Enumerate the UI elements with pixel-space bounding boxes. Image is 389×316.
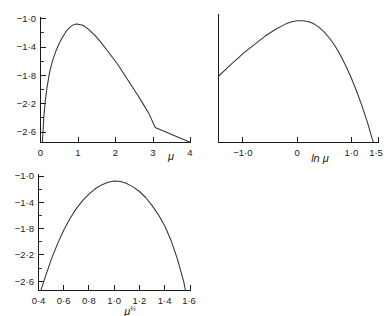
panel-mu-xtick-4: 4 (187, 147, 192, 158)
panel-mu: −1·0 −1·4 −1·8 −2·2 −2·6 0 1 2 3 4 μ (0, 0, 210, 165)
panel-lnmu-axes (219, 14, 379, 143)
panel-mucbrt-curve (41, 181, 185, 290)
panel-mucbrt-ytick-1: −1·4 (15, 197, 34, 208)
panel-mu-svg: −1·0 −1·4 −1·8 −2·2 −2·6 0 1 2 3 4 μ (0, 0, 210, 165)
panel-mucbrt-y-ticks (39, 176, 45, 281)
panel-mucbrt-xtick-0: 0·4 (32, 295, 46, 306)
panel-mu-xtick-0: 0 (38, 147, 43, 158)
panel-mu-ytick-4: −2·6 (17, 126, 36, 137)
panel-mucbrt: −1·0 −1·4 −1·8 −2·2 −2·6 0·4 0·6 0·8 1·0… (0, 165, 210, 316)
panel-mucbrt-xtick-6: 1·6 (182, 295, 196, 306)
panel-lnmu-svg: −1·0 0 1·0 1·5 ln μ (210, 0, 389, 165)
panel-mucbrt-x-ticks (39, 285, 191, 291)
panel-mu-x-ticks (41, 137, 191, 143)
panel-mucbrt-xaxis-label-exponent: ⅓ (130, 305, 136, 312)
panel-mucbrt-xtick-2: 0·8 (82, 295, 96, 306)
panel-mucbrt-xtick-1: 0·6 (57, 295, 71, 306)
panel-mucbrt-ytick-4: −2·6 (15, 276, 34, 287)
panel-mu-xtick-1: 1 (75, 147, 80, 158)
panel-lnmu-xtick-3: 1·5 (369, 147, 383, 158)
panel-mu-ytick-2: −1·8 (17, 70, 36, 81)
panel-mu-ytick-3: −2·2 (17, 98, 36, 109)
panel-mucbrt-ytick-0: −1·0 (15, 170, 34, 181)
figure-three-panel-plot: −1·0 −1·4 −1·8 −2·2 −2·6 0 1 2 3 4 μ (0, 0, 389, 316)
panel-mu-curve (42, 24, 190, 142)
panel-lnmu-xtick-1: 0 (295, 147, 300, 158)
panel-mu-xaxis-label: μ (167, 150, 174, 162)
panel-lnmu-xtick-2: 1·0 (345, 147, 359, 158)
panel-lnmu-curve (219, 21, 373, 142)
panel-lnmu: −1·0 0 1·0 1·5 ln μ (210, 0, 389, 165)
panel-mu-ytick-1: −1·4 (17, 41, 36, 52)
panel-mu-xtick-3: 3 (150, 147, 155, 158)
panel-mu-y-ticks (41, 19, 47, 132)
panel-lnmu-x-ticks (243, 137, 378, 143)
panel-mucbrt-ytick-2: −1·8 (15, 223, 34, 234)
panel-mucbrt-xaxis-label-base: μ (123, 305, 130, 316)
panel-mucbrt-ytick-3: −2·2 (15, 249, 34, 260)
panel-mucbrt-xtick-3: 1·0 (107, 295, 121, 306)
panel-mucbrt-svg: −1·0 −1·4 −1·8 −2·2 −2·6 0·4 0·6 0·8 1·0… (0, 165, 210, 316)
panel-mu-xtick-2: 2 (113, 147, 118, 158)
panel-lnmu-xtick-0: −1·0 (233, 147, 252, 158)
panel-mucbrt-xaxis-label: μ⅓ (123, 305, 136, 316)
panel-mu-ytick-0: −1·0 (17, 13, 36, 24)
panel-lnmu-xaxis-label: ln μ (311, 152, 329, 164)
panel-mucbrt-xtick-5: 1·4 (158, 295, 172, 306)
